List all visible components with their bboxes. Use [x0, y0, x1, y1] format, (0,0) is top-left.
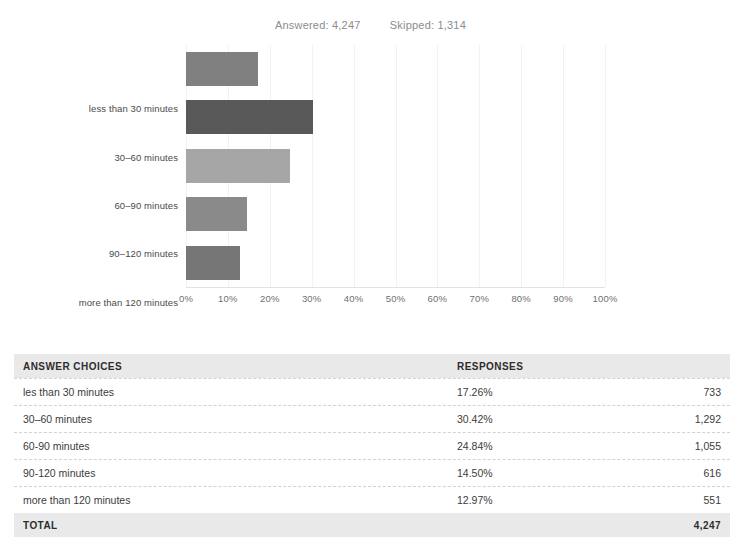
x-axis-tick: 70% [469, 293, 489, 304]
bar-row [186, 190, 605, 238]
column-header-responses: RESPONSES [457, 361, 617, 372]
table-row: 60-90 minutes24.84%1,055 [14, 432, 730, 459]
cell-response-count: 616 [617, 467, 730, 479]
answered-count: Answered: 4,247 [275, 19, 361, 31]
table-body: les than 30 minutes17.26%73330–60 minute… [14, 378, 730, 513]
x-axis-tick: 10% [218, 293, 238, 304]
cell-response-percent: 12.97% [457, 494, 617, 506]
cell-answer-choice: les than 30 minutes [14, 386, 457, 398]
table-row: 90-120 minutes14.50%616 [14, 459, 730, 486]
bar [186, 149, 290, 183]
x-axis-tick: 100% [592, 293, 617, 304]
survey-response-summary: Answered: 4,247 Skipped: 1,314 [0, 19, 741, 31]
x-axis-tick: 60% [428, 293, 448, 304]
cell-response-count: 733 [617, 386, 730, 398]
table-header-row: ANSWER CHOICES RESPONSES [14, 354, 730, 378]
x-axis-line [186, 287, 605, 288]
cell-response-count: 551 [617, 494, 730, 506]
bar [186, 197, 247, 231]
chart-plot-area [186, 45, 605, 287]
total-label: TOTAL [14, 520, 457, 531]
total-count: 4,247 [617, 520, 730, 531]
table-row: les than 30 minutes17.26%733 [14, 378, 730, 405]
bar-row [186, 93, 605, 141]
cell-answer-choice: 90-120 minutes [14, 467, 457, 479]
category-label: 60–90 minutes [58, 182, 178, 230]
cell-response-percent: 24.84% [457, 440, 617, 452]
x-axis-tick: 30% [302, 293, 322, 304]
category-label: 30–60 minutes [58, 133, 178, 181]
bar [186, 52, 258, 86]
x-axis-tick: 90% [553, 293, 573, 304]
bar-row [186, 45, 605, 93]
gridline [605, 45, 606, 287]
table-total-row: TOTAL 4,247 [14, 513, 730, 537]
skipped-count: Skipped: 1,314 [390, 19, 466, 31]
bar [186, 100, 313, 134]
cell-response-percent: 14.50% [457, 467, 617, 479]
cell-response-percent: 30.42% [457, 413, 617, 425]
bar [186, 246, 240, 280]
category-label: less than 30 minutes [58, 85, 178, 133]
results-table: ANSWER CHOICES RESPONSES les than 30 min… [14, 354, 730, 537]
cell-answer-choice: 60-90 minutes [14, 440, 457, 452]
bar-row [186, 239, 605, 287]
cell-answer-choice: 30–60 minutes [14, 413, 457, 425]
cell-response-percent: 17.26% [457, 386, 617, 398]
x-axis-tick: 50% [386, 293, 406, 304]
bar-row [186, 142, 605, 190]
category-label: 90–120 minutes [58, 230, 178, 278]
table-row: more than 120 minutes12.97%551 [14, 486, 730, 513]
table-row: 30–60 minutes30.42%1,292 [14, 405, 730, 432]
x-axis-tick: 20% [260, 293, 280, 304]
column-header-answer-choices: ANSWER CHOICES [14, 361, 457, 372]
x-axis-tick: 0% [179, 293, 193, 304]
x-axis-tick: 40% [344, 293, 364, 304]
x-axis-tick: 80% [511, 293, 531, 304]
cell-answer-choice: more than 120 minutes [14, 494, 457, 506]
category-label: more than 120 minutes [58, 279, 178, 327]
bar-chart: less than 30 minutes30–60 minutes60–90 m… [0, 40, 741, 325]
cell-response-count: 1,292 [617, 413, 730, 425]
cell-response-count: 1,055 [617, 440, 730, 452]
